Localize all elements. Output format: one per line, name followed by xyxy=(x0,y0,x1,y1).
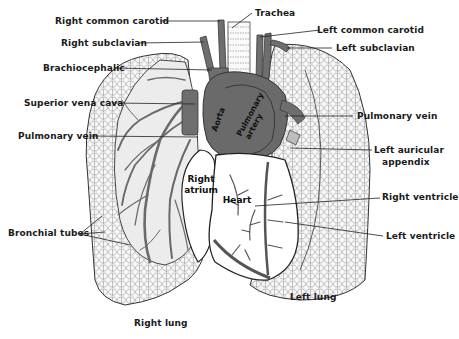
label-right-common-carotid: Right common carotid xyxy=(55,16,169,26)
label-right-atrium-line2: atrium xyxy=(184,185,218,195)
label-left-ventricle: Left ventricle xyxy=(386,231,455,241)
label-left-common-carotid: Left common carotid xyxy=(317,25,424,35)
label-left-auricular-appendix-line2: appendix xyxy=(382,157,430,167)
label-left-lung: Left lung xyxy=(290,292,336,302)
label-pulmonary-vein-left-side: Pulmonary vein xyxy=(357,111,437,121)
label-brachiocephalic: Brachiocephalic xyxy=(43,63,125,73)
label-left-auricular-appendix-line1: Left auricular xyxy=(374,145,444,155)
label-right-ventricle: Right ventricle xyxy=(382,192,459,202)
label-trachea: Trachea xyxy=(255,8,295,18)
label-pulmonary-vein-right-side: Pulmonary vein xyxy=(18,131,98,141)
label-right-subclavian: Right subclavian xyxy=(61,38,147,48)
label-superior-vena-cava: Superior vena cava xyxy=(24,98,123,108)
label-right-atrium-line1: Right xyxy=(186,174,216,184)
label-bronchial-tubes: Bronchial tubes xyxy=(8,228,89,238)
label-right-lung: Right lung xyxy=(134,318,188,328)
label-heart: Heart xyxy=(222,195,252,205)
label-left-subclavian: Left subclavian xyxy=(336,43,415,53)
ventricles xyxy=(209,153,298,280)
